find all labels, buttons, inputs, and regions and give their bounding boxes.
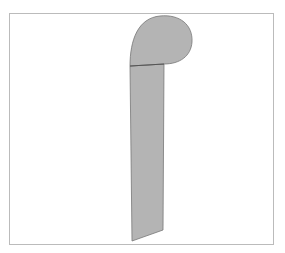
shape-figure xyxy=(0,0,285,253)
head-shape xyxy=(130,16,192,66)
neck-shape xyxy=(130,64,164,241)
